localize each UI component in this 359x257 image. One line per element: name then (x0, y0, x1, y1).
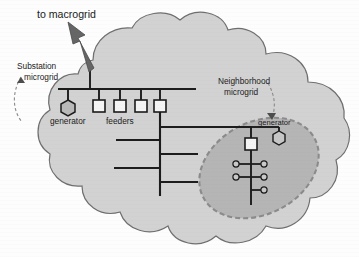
substation-generator-node (61, 100, 75, 116)
feeders-label: feeders (106, 116, 134, 126)
feeder-breaker-2 (114, 100, 126, 112)
neighborhood-microgrid-label-line2: microgrid (224, 87, 259, 97)
substation-microgrid-pointer (14, 77, 22, 122)
feeder-breaker-4 (154, 100, 166, 112)
neighborhood-generator-node (273, 131, 285, 145)
neighborhood-generator-label: generator (258, 118, 291, 127)
load-node-1 (233, 161, 239, 167)
feeder-breaker-3 (135, 100, 147, 112)
substation-generator-label: generator (50, 116, 86, 126)
neighborhood-microgrid-label-line1: Neighborhood (218, 76, 271, 86)
load-node-3 (233, 174, 239, 180)
macrogrid-label: to macrogrid (37, 8, 96, 20)
substation-microgrid-label-line1: Substation (17, 61, 57, 71)
macrogrid-arrow (68, 22, 94, 72)
load-node-5 (261, 187, 267, 193)
load-node-4 (261, 174, 267, 180)
diagram-canvas: to macrogrid Substation microgrid Neighb… (0, 0, 359, 257)
microgrid-diagram: to macrogrid Substation microgrid Neighb… (0, 0, 359, 257)
feeder-breaker-1 (93, 100, 105, 112)
neighborhood-breaker-node (245, 138, 257, 150)
load-node-2 (261, 161, 267, 167)
substation-microgrid-label-line2: microgrid (24, 72, 59, 82)
